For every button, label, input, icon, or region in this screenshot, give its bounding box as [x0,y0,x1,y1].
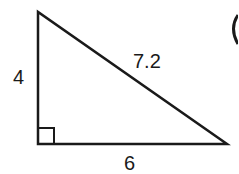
right-angle-marker [38,128,54,144]
triangle-diagram: 4 7.2 6 [0,0,238,174]
right-triangle-figure [0,0,238,174]
horizontal-leg-label: 6 [124,153,135,173]
triangle-outline [38,12,227,144]
hypotenuse-label: 7.2 [133,51,161,71]
vertical-leg-label: 4 [13,67,24,87]
partial-parenthesis [234,15,239,44]
